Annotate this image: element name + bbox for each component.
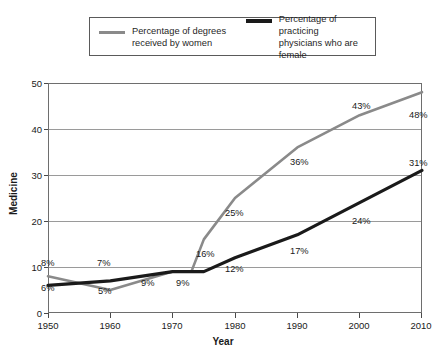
chart-legend: Percentage of degrees received by women … [89,17,376,56]
x-tickmark-1980 [235,313,236,318]
point-label: 25% [225,208,244,218]
x-tick-1990: 1990 [277,320,317,331]
x-axis-title: Year [0,336,446,347]
x-tick-1970: 1970 [152,320,192,331]
x-tick-1950: 1950 [28,320,68,331]
x-tick-2010: 2010 [401,320,441,331]
x-tickmark-2000 [359,313,360,318]
point-label: 9% [176,278,189,288]
x-tickmark-1960 [110,313,111,318]
y-tickmark-50 [44,83,48,84]
x-tickmark-1950 [48,313,49,318]
x-tick-1960: 1960 [90,320,130,331]
point-label: 43% [352,101,371,111]
point-label: 31% [409,158,428,168]
legend-entry-degrees: Percentage of degrees received by women [90,25,237,49]
y-tick-10: 10 [8,262,42,273]
legend-label-physicians: Percentage of practicing physicians who … [279,13,375,61]
legend-swatch-degrees [99,31,125,34]
x-tickmark-1970 [172,313,173,318]
y-tick-0: 0 [8,308,42,319]
y-tickmark-20 [44,221,48,222]
point-label: 7% [97,258,110,268]
y-tickmark-30 [44,175,48,176]
gridline-30 [49,175,421,176]
point-label: 17% [290,246,309,256]
y-axis-title: Medicine [8,149,19,239]
y-tick-50: 50 [8,78,42,89]
x-tick-2000: 2000 [339,320,379,331]
legend-label-degrees: Percentage of degrees received by women [132,25,226,49]
y-tick-40: 40 [8,124,42,135]
plot-area [48,83,422,313]
chart-figure: Percentage of degrees received by women … [0,0,446,361]
gridline-40 [49,129,421,130]
point-label: 8% [41,258,54,268]
legend-swatch-physicians [246,19,272,23]
x-tickmark-2010 [421,313,422,318]
x-tick-1980: 1980 [215,320,255,331]
y-tickmark-40 [44,129,48,130]
point-label: 5% [98,286,111,296]
point-label: 16% [196,249,215,259]
legend-entry-physicians: Percentage of practicing physicians who … [237,13,375,61]
point-label: 36% [290,157,309,167]
point-label: 12% [225,264,244,274]
x-tickmark-1990 [297,313,298,318]
point-label: 6% [41,283,54,293]
point-label: 24% [352,216,371,226]
point-label: 48% [409,110,428,120]
point-label: 9% [141,278,154,288]
